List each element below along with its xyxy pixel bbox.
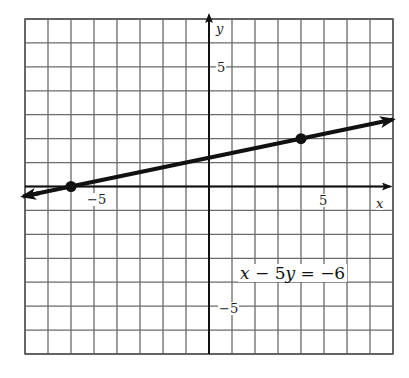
x-axis-title: x — [376, 197, 383, 210]
plotted-point — [296, 133, 307, 144]
y-axis-title: y — [216, 22, 223, 35]
eq-rhs: = −6 — [295, 263, 345, 283]
eq-minus-5: − 5 — [250, 263, 286, 283]
y-tick-label-neg5: −5 — [218, 302, 239, 315]
x-tick-label-5: 5 — [318, 194, 328, 207]
plotted-point — [66, 181, 77, 192]
eq-x: x — [240, 263, 250, 283]
eq-y: y — [285, 263, 295, 283]
equation-label: x − 5y = −6 — [238, 264, 347, 282]
coordinate-plane — [0, 0, 409, 378]
x-tick-label-neg5: −5 — [86, 193, 107, 206]
y-tick-label-5: 5 — [216, 61, 226, 74]
